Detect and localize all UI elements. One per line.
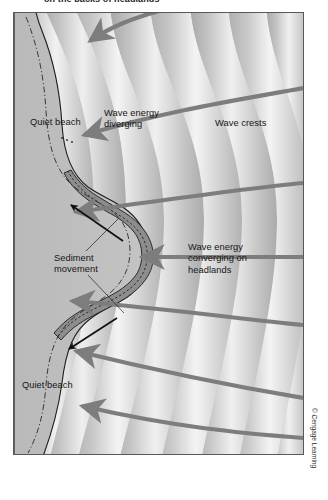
beach-tick (61, 137, 63, 139)
figure-frame: Quiet beach Wave energy diverging Wave c… (13, 12, 304, 455)
label-quiet-beach-top: Quiet beach (30, 117, 81, 128)
label-quiet-beach-bottom: Quiet beach (22, 380, 73, 391)
copyright-credit: © Cengage Learning (308, 408, 322, 500)
label-wave-crests: Wave crests (215, 118, 266, 129)
figure-page: on the backs of headlands (0, 0, 328, 500)
beach-tick (66, 139, 68, 141)
figure-caption-strip: on the backs of headlands (0, 0, 328, 12)
label-wave-energy-converging: Wave energy converging on headlands (188, 242, 247, 276)
label-sediment-movement: Sediment movement (54, 253, 98, 276)
label-wave-energy-diverging: Wave energy diverging (104, 108, 159, 131)
copyright-credit-text: © Cengage Learning (308, 408, 320, 500)
figure-caption-text: on the backs of headlands (44, 0, 160, 4)
beach-tick (71, 141, 73, 143)
